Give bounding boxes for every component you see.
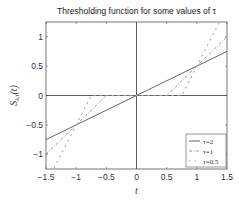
y-tick-label: −1	[33, 149, 43, 159]
axes: −1.5−1−0.500.511.5−1−0.500.51tSλ,τ(t)	[8, 22, 233, 196]
x-tick-label: 0.5	[161, 172, 173, 182]
y-axis-label: Sλ,τ(t)	[8, 84, 20, 105]
y-tick-label: −0.5	[26, 120, 43, 130]
x-axis-label: t	[135, 185, 138, 196]
legend-entry: τ=2	[203, 138, 214, 146]
chart-plot: −1.5−1−0.500.511.5−1−0.500.51tSλ,τ(t) τ=…	[0, 0, 239, 202]
y-tick-label: 0.5	[31, 61, 43, 71]
x-tick-label: −0.5	[98, 172, 115, 182]
x-tick-label: 1	[194, 172, 199, 182]
y-tick-label: 1	[38, 32, 43, 42]
x-tick-label: −1	[71, 172, 81, 182]
legend-entry: τ=1	[203, 148, 214, 156]
x-tick-label: 0	[134, 172, 139, 182]
y-tick-label: 0	[38, 91, 43, 101]
x-tick-label: −1.5	[38, 172, 55, 182]
legend-entry: τ=0.5	[203, 158, 219, 166]
x-tick-label: 1.5	[221, 172, 233, 182]
legend: τ=2τ=1τ=0.5	[186, 134, 226, 167]
